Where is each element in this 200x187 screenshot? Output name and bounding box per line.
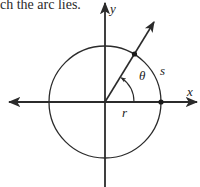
y-axis-label: y [108, 1, 116, 16]
arc-length-label: s [160, 63, 165, 78]
radius-label: r [122, 105, 128, 120]
angle-arc [122, 78, 135, 102]
x-axis-label: x [186, 84, 193, 99]
terminal-ray [105, 22, 154, 102]
arc-diagram: y x θ s r [0, 0, 200, 187]
arc-start-point [158, 99, 163, 104]
angle-label: θ [139, 68, 146, 83]
arc-end-point [132, 51, 137, 56]
